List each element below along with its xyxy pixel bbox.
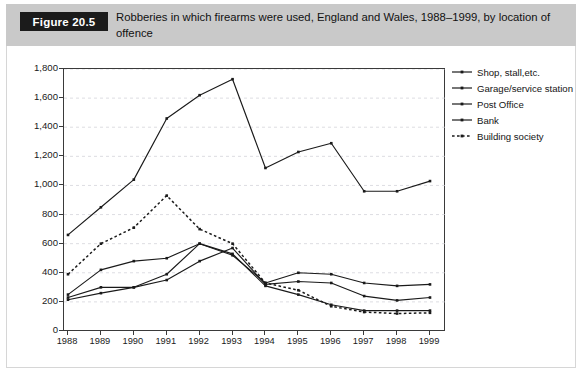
legend-item[interactable]: Building society xyxy=(451,128,582,144)
data-point-marker xyxy=(396,309,399,312)
x-axis-tick-mark xyxy=(133,331,134,335)
data-point-marker xyxy=(396,285,399,288)
x-axis-tick-mark xyxy=(396,331,397,335)
x-axis-tick-mark xyxy=(330,331,331,335)
data-point-marker xyxy=(67,234,70,237)
data-point-marker xyxy=(198,242,201,245)
data-point-marker xyxy=(396,312,399,315)
legend-item[interactable]: Shop, stall,etc. xyxy=(451,64,582,80)
data-point-marker xyxy=(67,273,70,276)
data-point-marker xyxy=(363,295,366,298)
legend-item[interactable]: Bank xyxy=(451,112,582,128)
x-axis-tick-mark xyxy=(264,331,265,335)
data-point-marker xyxy=(231,242,234,245)
y-axis-tick-label: 0 xyxy=(16,324,58,335)
data-point-marker xyxy=(231,253,234,256)
y-axis-tick-mark xyxy=(59,68,63,69)
data-point-marker xyxy=(396,299,399,302)
y-axis-tick-mark xyxy=(59,184,63,185)
y-axis-tick-mark xyxy=(59,155,63,156)
y-axis-tick-mark xyxy=(59,330,63,331)
y-axis-tick-mark xyxy=(59,301,63,302)
data-point-marker xyxy=(330,142,333,145)
data-point-marker xyxy=(100,292,103,295)
legend-line-icon xyxy=(451,83,473,93)
data-point-marker xyxy=(100,286,103,289)
data-point-marker xyxy=(429,283,432,286)
data-point-marker xyxy=(264,167,267,170)
y-axis-tick-label: 1,800 xyxy=(16,62,58,73)
figure-number-badge: Figure 20.5 xyxy=(20,12,108,31)
y-axis-tick-label: 600 xyxy=(16,237,58,248)
legend-line-icon xyxy=(451,115,473,125)
data-point-marker xyxy=(231,247,234,250)
data-point-marker xyxy=(297,280,300,283)
data-point-marker xyxy=(67,298,70,301)
data-point-marker xyxy=(133,286,136,289)
legend-label: Post Office xyxy=(477,99,524,110)
data-point-marker xyxy=(198,260,201,263)
data-point-marker xyxy=(264,285,267,288)
data-point-marker xyxy=(67,293,70,296)
data-point-marker xyxy=(100,242,103,245)
series-line xyxy=(68,248,430,300)
chart-legend: Shop, stall,etc.Garage/service stationPo… xyxy=(451,64,582,144)
data-point-marker xyxy=(100,269,103,272)
x-axis-tick-mark xyxy=(429,331,430,335)
x-axis-tick-mark xyxy=(100,331,101,335)
x-axis-tick-label: 1999 xyxy=(409,336,449,346)
data-point-marker xyxy=(165,257,168,260)
y-axis-tick-mark xyxy=(59,126,63,127)
data-point-marker xyxy=(330,282,333,285)
data-point-marker xyxy=(165,279,168,282)
legend-line-icon xyxy=(451,99,473,109)
data-point-marker xyxy=(297,151,300,154)
data-point-marker xyxy=(429,180,432,183)
data-point-marker xyxy=(165,117,168,120)
legend-item[interactable]: Post Office xyxy=(451,96,582,112)
legend-item[interactable]: Garage/service station xyxy=(451,80,582,96)
legend-line-icon xyxy=(451,131,473,141)
legend-label: Garage/service station xyxy=(477,83,573,94)
line-chart-plot xyxy=(64,69,446,332)
y-axis-tick-label: 1,000 xyxy=(16,178,58,189)
series-line xyxy=(68,244,430,311)
x-axis-tick-mark xyxy=(199,331,200,335)
y-axis-tick-mark xyxy=(59,97,63,98)
x-axis-tick-mark xyxy=(67,331,68,335)
data-point-marker xyxy=(231,78,234,81)
y-axis-tick-label: 200 xyxy=(16,295,58,306)
chart-area: 02004006008001,0001,2001,4001,6001,800 1… xyxy=(6,46,576,368)
data-point-marker xyxy=(165,273,168,276)
legend-label: Bank xyxy=(477,115,499,126)
data-point-marker xyxy=(363,311,366,314)
data-point-marker xyxy=(264,282,267,285)
y-axis-tick-label: 1,200 xyxy=(16,149,58,160)
y-axis-tick-label: 1,400 xyxy=(16,120,58,131)
data-point-marker xyxy=(198,228,201,231)
data-point-marker xyxy=(297,293,300,296)
figure-caption: Robberies in which firearms were used, E… xyxy=(116,10,578,41)
plot-frame xyxy=(63,68,445,331)
data-point-marker xyxy=(100,206,103,209)
y-axis-tick-label: 800 xyxy=(16,208,58,219)
data-point-marker xyxy=(297,289,300,292)
figure-header-band: Figure 20.5 Robberies in which firearms … xyxy=(6,4,576,46)
x-axis-tick-mark xyxy=(363,331,364,335)
data-point-marker xyxy=(363,282,366,285)
data-point-marker xyxy=(165,194,168,197)
data-point-marker xyxy=(133,260,136,263)
x-axis-tick-mark xyxy=(166,331,167,335)
y-axis-tick-mark xyxy=(59,243,63,244)
data-point-marker xyxy=(330,273,333,276)
legend-label: Shop, stall,etc. xyxy=(477,67,540,78)
data-point-marker xyxy=(297,271,300,274)
legend-label: Building society xyxy=(477,131,544,142)
data-point-marker xyxy=(396,190,399,193)
y-axis-tick-label: 1,600 xyxy=(16,91,58,102)
x-axis-tick-mark xyxy=(297,331,298,335)
data-point-marker xyxy=(363,190,366,193)
data-point-marker xyxy=(429,296,432,299)
series-line xyxy=(68,79,430,235)
figure-card: Figure 20.5 Robberies in which firearms … xyxy=(0,0,582,374)
